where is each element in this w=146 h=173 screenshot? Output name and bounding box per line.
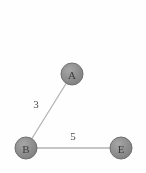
graph-diagram: 3 5 A B E bbox=[0, 0, 146, 173]
node-b[interactable]: B bbox=[15, 137, 37, 159]
edge-label-layer: 3 5 bbox=[33, 98, 76, 142]
edge-a-b-line bbox=[26, 74, 72, 148]
edge-a-b-weight-label: 3 bbox=[33, 98, 39, 110]
node-layer: A B E bbox=[15, 63, 132, 159]
node-a[interactable]: A bbox=[61, 63, 83, 85]
node-e[interactable]: E bbox=[110, 137, 132, 159]
node-b-label: B bbox=[22, 143, 29, 155]
graph-canvas: 3 5 A B E bbox=[0, 0, 146, 173]
node-e-label: E bbox=[118, 143, 125, 155]
node-a-label: A bbox=[68, 69, 76, 81]
edge-b-e-weight-label: 5 bbox=[70, 130, 76, 142]
